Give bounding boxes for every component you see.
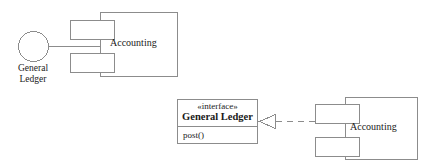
component-tab-upper-top bbox=[71, 21, 115, 40]
component-tab-lower-bottom bbox=[316, 138, 360, 157]
provided-interface-label: GeneralLedger bbox=[4, 63, 62, 84]
interface-stereotype-label: «interface» bbox=[178, 101, 257, 111]
provided-interface-label-line1: General bbox=[18, 63, 48, 73]
component-name-top: Accounting bbox=[110, 37, 157, 48]
uml-component-diagram: GeneralLedger Accounting «interface» Gen… bbox=[0, 0, 433, 168]
provided-interface-label-line2: Ledger bbox=[20, 74, 47, 84]
component-name-bottom: Accounting bbox=[350, 121, 397, 132]
provided-interface-circle-icon bbox=[19, 32, 49, 62]
interface-operation-post: post() bbox=[183, 130, 204, 140]
diagram-vector-layer bbox=[0, 0, 433, 168]
interface-name-label: General Ledger bbox=[178, 111, 257, 123]
component-tab-lower-top bbox=[71, 54, 115, 73]
realization-hollow-triangle-arrowhead bbox=[260, 115, 276, 129]
